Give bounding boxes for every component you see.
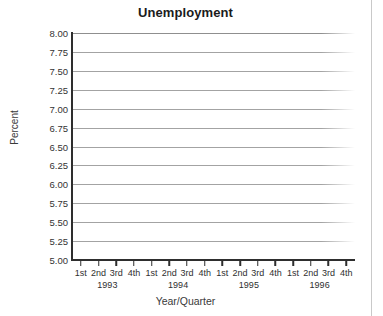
gridline: [72, 90, 355, 91]
y-axis-label: Percent: [9, 98, 20, 158]
x-quarter-label: 3rd: [180, 268, 193, 278]
y-tick-label: 5.00: [32, 255, 68, 266]
y-tick-label: 6.50: [32, 141, 68, 152]
gridline: [72, 147, 355, 148]
gridline: [72, 128, 355, 129]
gridline: [72, 33, 355, 34]
y-axis-tick-labels: 8.007.757.507.257.006.756.506.256.005.75…: [28, 33, 68, 260]
gridline: [72, 184, 355, 185]
x-year-label: 1993: [97, 280, 117, 290]
y-tick-label: 6.75: [32, 122, 68, 133]
x-quarter-label: 2nd: [162, 268, 177, 278]
gridline: [72, 165, 355, 166]
x-axis-label: Year/Quarter: [0, 295, 371, 307]
y-tick-label: 5.75: [32, 198, 68, 209]
x-tick-mark: [169, 261, 171, 266]
x-quarter-label: 4th: [340, 268, 353, 278]
x-tick-mark: [151, 261, 153, 266]
x-quarter-label: 1st: [146, 268, 158, 278]
x-quarter-label: 4th: [198, 268, 211, 278]
x-tick-mark: [80, 261, 82, 266]
x-tick-mark: [345, 261, 347, 266]
x-tick-mark: [186, 261, 188, 266]
x-quarter-label: 1st: [287, 268, 299, 278]
x-tick-mark: [133, 261, 135, 266]
y-axis-line: [71, 32, 73, 261]
plot-area: [72, 33, 355, 260]
x-year-label: 1996: [310, 280, 330, 290]
x-tick-mark: [275, 261, 277, 266]
gridline: [72, 222, 355, 223]
y-tick-label: 5.50: [32, 217, 68, 228]
y-tick-label: 6.00: [32, 179, 68, 190]
gridline: [72, 109, 355, 110]
y-tick-label: 8.00: [32, 28, 68, 39]
x-tick-mark: [239, 261, 241, 266]
x-axis-year-labels: 1993199419951996: [72, 280, 355, 293]
gridline: [72, 71, 355, 72]
x-quarter-label: 4th: [269, 268, 282, 278]
gridline: [72, 241, 355, 242]
y-tick-label: 6.25: [32, 160, 68, 171]
page-edge-rule: [371, 0, 372, 316]
x-tick-mark: [222, 261, 224, 266]
gridline: [72, 52, 355, 53]
x-quarter-label: 3rd: [110, 268, 123, 278]
x-tick-mark: [292, 261, 294, 266]
x-quarter-label: 4th: [128, 268, 141, 278]
x-tick-mark: [310, 261, 312, 266]
y-tick-label: 7.25: [32, 84, 68, 95]
x-tick-mark: [115, 261, 117, 266]
x-quarter-label: 3rd: [322, 268, 335, 278]
gridline: [72, 203, 355, 204]
x-quarter-label: 2nd: [303, 268, 318, 278]
x-quarter-label: 3rd: [251, 268, 264, 278]
x-quarter-label: 1st: [75, 268, 87, 278]
x-tick-mark: [257, 261, 259, 266]
x-quarter-label: 2nd: [233, 268, 248, 278]
x-year-label: 1994: [168, 280, 188, 290]
y-tick-label: 7.75: [32, 46, 68, 57]
x-axis-tick-marks: [72, 261, 355, 267]
x-tick-mark: [328, 261, 330, 266]
chart-title: Unemployment: [0, 5, 371, 20]
x-tick-mark: [98, 261, 100, 266]
x-quarter-label: 2nd: [91, 268, 106, 278]
x-tick-mark: [204, 261, 206, 266]
y-tick-label: 7.50: [32, 65, 68, 76]
x-year-label: 1995: [239, 280, 259, 290]
y-tick-label: 5.25: [32, 236, 68, 247]
y-tick-label: 7.00: [32, 103, 68, 114]
x-quarter-label: 1st: [216, 268, 228, 278]
